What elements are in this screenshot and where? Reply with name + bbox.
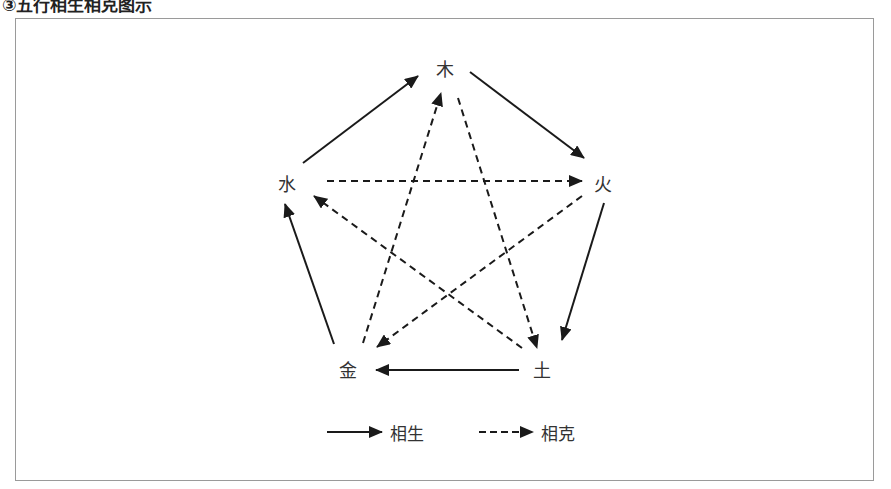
arrow-fire-to-metal <box>377 196 582 347</box>
node-metal: 金 <box>339 356 357 382</box>
arrow-metal-to-wood <box>363 93 441 343</box>
node-wood: 木 <box>436 55 454 81</box>
node-fire: 火 <box>594 170 612 196</box>
node-water: 水 <box>278 170 296 196</box>
legend-generating-label: 相生 <box>390 420 424 445</box>
generating-arrows <box>285 72 604 370</box>
arrow-fire-to-earth <box>562 203 604 340</box>
overcoming-arrows <box>314 93 582 348</box>
arrow-earth-to-water <box>314 196 522 348</box>
arrow-water-to-wood <box>303 76 418 163</box>
arrow-wood-to-fire <box>470 72 584 158</box>
node-earth: 土 <box>533 356 551 382</box>
arrow-metal-to-water <box>285 204 334 344</box>
legend-overcoming-label: 相克 <box>541 420 575 445</box>
